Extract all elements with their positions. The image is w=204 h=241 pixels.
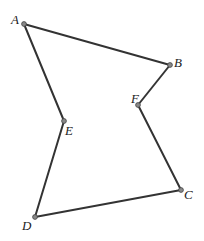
edge-bf	[138, 65, 170, 105]
vertex-label-a: A	[10, 12, 19, 27]
edge-fc	[138, 105, 181, 190]
vertex-b	[168, 63, 173, 68]
edge-ea	[24, 24, 64, 121]
vertex-label-b: B	[174, 55, 182, 70]
polygon-diagram: ABCDEF	[0, 0, 204, 241]
vertex-d	[33, 215, 38, 220]
vertex-a	[22, 22, 27, 27]
edge-de	[35, 121, 64, 217]
vertex-label-d: D	[21, 218, 32, 233]
vertex-label-e: E	[64, 123, 73, 138]
vertex-c	[179, 188, 184, 193]
points-group	[22, 22, 184, 220]
vertex-label-f: F	[130, 91, 140, 106]
edge-cd	[35, 190, 181, 217]
vertex-label-c: C	[184, 187, 193, 202]
edges-group	[24, 24, 181, 217]
edge-ab	[24, 24, 170, 65]
